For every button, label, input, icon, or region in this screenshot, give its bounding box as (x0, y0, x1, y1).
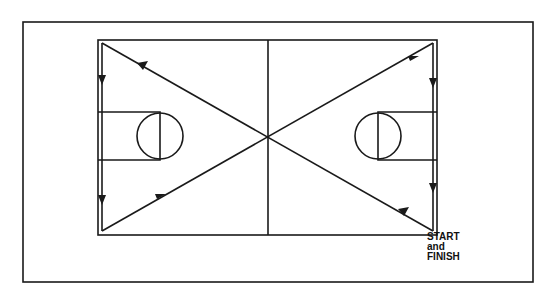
arrow-icon (98, 195, 106, 205)
arrow-icon (429, 183, 437, 193)
court-diagram (0, 0, 557, 297)
right-free-throw-lane (378, 112, 437, 160)
start-finish-label: START and FINISH (427, 232, 460, 262)
arrow-icon (429, 78, 437, 88)
arrow-icon (408, 56, 419, 61)
left-free-throw-lane (98, 112, 160, 160)
finish-text: FINISH (427, 252, 460, 262)
arrow-icon (98, 75, 106, 85)
